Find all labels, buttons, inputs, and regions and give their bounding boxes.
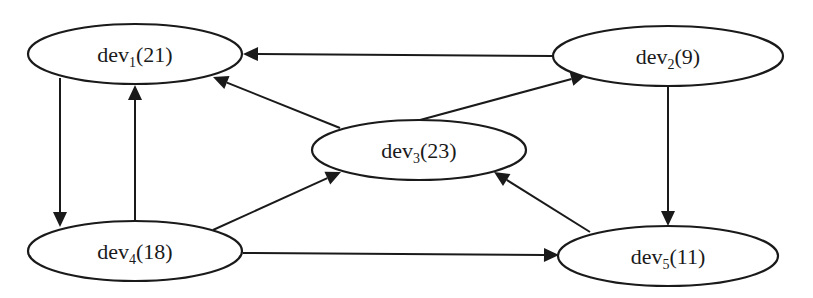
node-dev1: dev1(21) (28, 24, 242, 84)
arrowhead-icon (661, 211, 675, 226)
edge-dev2-to-dev5 (661, 86, 675, 226)
edge-line (213, 178, 327, 230)
node-ellipse (558, 226, 778, 286)
node-ellipse (28, 24, 242, 84)
edge-line (420, 79, 572, 120)
node-dev5: dev5(11) (558, 226, 778, 286)
edge-line (227, 83, 340, 128)
edge-line (258, 54, 553, 56)
arrowhead-icon (53, 212, 67, 227)
edge-dev1-to-dev4 (53, 78, 67, 227)
arrowhead-icon (243, 47, 258, 61)
edge-dev3-to-dev1 (213, 76, 340, 128)
arrowhead-icon (128, 85, 142, 100)
node-ellipse (553, 26, 783, 86)
edge-line (507, 180, 590, 232)
edge-dev4-to-dev3 (213, 172, 341, 230)
edge-dev3-to-dev2 (420, 72, 586, 120)
device-graph-diagram: dev1(21)dev2(9)dev3(23)dev4(18)dev5(11) (0, 0, 813, 298)
arrowhead-icon (544, 248, 559, 262)
edge-dev4-to-dev5 (243, 248, 559, 262)
arrowhead-icon (494, 172, 510, 186)
node-ellipse (28, 221, 242, 281)
edge-dev2-to-dev1 (243, 47, 553, 61)
node-dev2: dev2(9) (553, 26, 783, 86)
edge-dev5-to-dev3 (494, 172, 590, 232)
node-ellipse (312, 120, 526, 180)
node-dev4: dev4(18) (28, 221, 242, 281)
node-dev3: dev3(23) (312, 120, 526, 180)
edge-dev4-to-dev1 (128, 85, 142, 221)
nodes-layer: dev1(21)dev2(9)dev3(23)dev4(18)dev5(11) (28, 24, 783, 286)
edge-line (243, 253, 544, 255)
